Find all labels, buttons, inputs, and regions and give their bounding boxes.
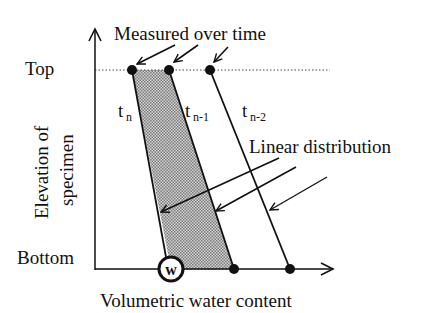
shaded-water-loss-region xyxy=(132,70,234,269)
measured-over-time-label: Measured over time xyxy=(114,23,266,44)
bottom-point-tn-1 xyxy=(229,264,239,274)
linear-arrow-2 xyxy=(216,167,296,211)
measured-point-tn-top xyxy=(127,65,137,75)
measured-point-tn-2-top xyxy=(205,65,215,75)
profile-label-tn-1-base: t xyxy=(185,100,191,121)
measured-point-tn-1-top xyxy=(164,65,174,75)
linear-distribution-label: Linear distribution xyxy=(249,136,391,157)
profile-label-tn-2-sub: n-2 xyxy=(250,110,266,124)
measured-arrow-3 xyxy=(214,47,228,62)
profile-label-tn-1-sub: n-1 xyxy=(193,110,209,124)
water-content-profile-diagram: w Measured over time Top Bottom Elevatio… xyxy=(0,0,433,313)
profile-label-tn: t n xyxy=(118,100,132,124)
profile-label-tn-2: t n-2 xyxy=(242,100,266,124)
y-axis-label-line2: specimen xyxy=(56,134,77,206)
profile-label-tn-2-base: t xyxy=(242,100,248,121)
x-axis-label: Volumetric water content xyxy=(100,290,292,311)
y-axis-label-line1: Elevation of xyxy=(31,125,52,219)
profile-label-tn-base: t xyxy=(118,100,124,121)
linear-arrow-3 xyxy=(270,177,327,210)
profile-label-tn-sub: n xyxy=(126,110,132,124)
measured-arrow-1 xyxy=(137,45,175,64)
y-top-label: Top xyxy=(25,58,54,79)
y-bottom-label: Bottom xyxy=(17,247,74,268)
bottom-point-tn-2 xyxy=(285,264,295,274)
w-marker-label: w xyxy=(165,261,177,278)
measured-arrow-2 xyxy=(174,45,198,62)
profile-label-tn-1: t n-1 xyxy=(185,100,209,124)
